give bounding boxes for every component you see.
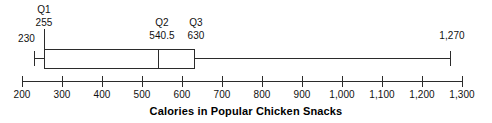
x-axis-tick-label-800: 800 [254, 89, 271, 100]
x-axis-tick-1200 [422, 76, 423, 87]
q3-tag-label: Q3 [189, 17, 203, 28]
min-value-label: 230 [18, 33, 35, 44]
interquartile-box [44, 49, 195, 69]
right-whisker-cap [450, 51, 451, 66]
q1-leader-line [44, 29, 45, 49]
q1-tag-label: Q1 [37, 4, 51, 15]
median-tag-label: Q2 [155, 17, 169, 28]
box-plot-figure: Q1 255 230 Q2 540.5 Q3 630 1,270 200 300… [0, 0, 492, 123]
x-axis-tick-600 [182, 76, 183, 87]
x-axis-tick-label-1100: 1,100 [369, 89, 395, 100]
x-axis-tick-200 [22, 76, 23, 87]
median-value-label: 540.5 [149, 30, 175, 41]
x-axis-line [22, 81, 463, 82]
x-axis-tick-400 [102, 76, 103, 87]
max-value-label: 1,270 [439, 30, 465, 41]
right-whisker-line [194, 58, 451, 59]
x-axis-tick-800 [262, 76, 263, 87]
x-axis-tick-500 [142, 76, 143, 87]
x-axis-tick-label-1200: 1,200 [409, 89, 435, 100]
left-whisker-cap [34, 51, 35, 66]
x-axis-tick-1000 [342, 76, 343, 87]
x-axis-tick-label-300: 300 [54, 89, 71, 100]
q3-value-label: 630 [188, 30, 205, 41]
x-axis-tick-900 [302, 76, 303, 87]
x-axis-tick-label-1000: 1,000 [329, 89, 355, 100]
x-axis-tick-label-600: 600 [174, 89, 191, 100]
x-axis-tick-300 [62, 76, 63, 87]
x-axis-tick-label-400: 400 [94, 89, 111, 100]
x-axis-tick-1100 [382, 76, 383, 87]
q1-value-label: 255 [36, 17, 53, 28]
x-axis-tick-label-1300: 1,300 [449, 89, 475, 100]
x-axis-tick-label-900: 900 [294, 89, 311, 100]
x-axis-tick-1300 [462, 76, 463, 87]
x-axis-title: Calories in Popular Chicken Snacks [0, 105, 492, 117]
x-axis-tick-700 [222, 76, 223, 87]
x-axis-tick-label-700: 700 [214, 89, 231, 100]
median-line [158, 49, 159, 69]
x-axis-tick-label-200: 200 [14, 89, 31, 100]
x-axis-tick-label-500: 500 [134, 89, 151, 100]
